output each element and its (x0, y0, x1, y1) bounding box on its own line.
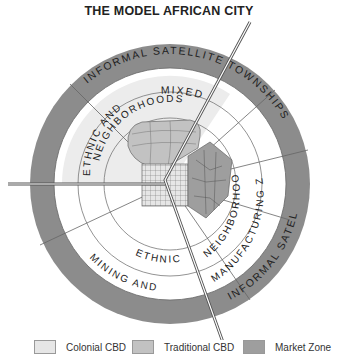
legend-swatch (243, 340, 265, 354)
city-model-diagram: INFORMAL SATELLITE TOWNSHIPS MIXED NEIGH… (0, 0, 338, 340)
legend-label: Traditional CBD (164, 342, 234, 353)
legend-colonial-cbd: Colonial CBD (34, 340, 126, 354)
legend-market-zone: Market Zone (243, 340, 331, 354)
legend-traditional-cbd: Traditional CBD (132, 340, 234, 354)
legend-swatch (132, 340, 154, 354)
legend-swatch (34, 340, 56, 354)
legend-label: Market Zone (275, 342, 331, 353)
legend-label: Colonial CBD (66, 342, 126, 353)
legend: Colonial CBD Traditional CBD Market Zone (0, 340, 338, 360)
